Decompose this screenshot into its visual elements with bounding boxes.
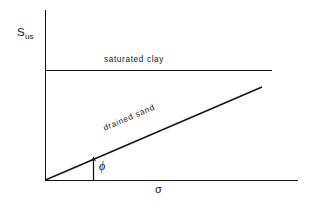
friction-angle-label: ϕ: [99, 160, 105, 172]
drained-sand-line: [46, 87, 263, 180]
diagram-canvas: [0, 0, 320, 208]
figure-container: Sus σ saturated clay drained sand ϕ: [0, 0, 320, 208]
y-axis-label: Sus: [17, 27, 34, 41]
saturated-clay-label: saturated clay: [104, 56, 164, 64]
y-axis-label-main: S: [17, 26, 25, 38]
y-axis-label-subscript: us: [25, 32, 34, 41]
x-axis-label: σ: [155, 184, 162, 195]
